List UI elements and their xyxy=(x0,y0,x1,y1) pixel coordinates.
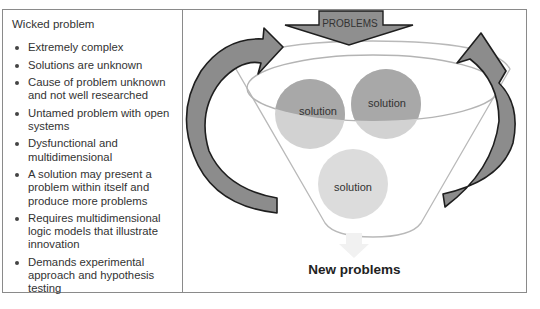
problems-label: PROBLEMS xyxy=(318,18,382,29)
diagram-frame: Wicked problem Extremely complex Solutio… xyxy=(2,9,527,293)
solution-label-1: solution xyxy=(290,105,346,117)
new-problems-label: New problems xyxy=(183,262,526,277)
right-cycle-arrow xyxy=(443,33,515,207)
solution-label-3: solution xyxy=(325,181,381,193)
left-cycle-arrow xyxy=(186,28,283,213)
solution-label-2: solution xyxy=(359,97,415,109)
funnel-diagram-panel: PROBLEMS solution solution solution New … xyxy=(183,10,526,292)
